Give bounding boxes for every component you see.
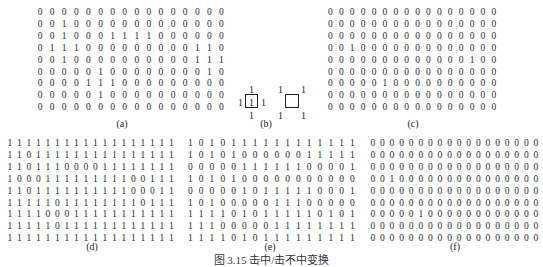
- matrix-cell: 0: [477, 67, 488, 79]
- matrix-cell: 0: [107, 43, 119, 55]
- matrix-cell: 0: [435, 221, 445, 233]
- matrix-cell: 0: [239, 198, 250, 210]
- matrix-cell: 0: [70, 31, 82, 43]
- matrix-cell: 0: [46, 67, 58, 79]
- matrix-cell: 0: [493, 162, 503, 174]
- matrix-cell: 0: [217, 162, 228, 174]
- matrix-cell: 0: [401, 7, 412, 19]
- matrix-cell: 1: [143, 31, 155, 43]
- matrix-cell: 1: [43, 186, 53, 198]
- matrix-cell: 0: [46, 55, 58, 67]
- matrix-cell: 0: [94, 31, 106, 43]
- matrix-cell: 0: [167, 67, 179, 79]
- matrix-cell: 0: [148, 186, 158, 198]
- matrix-cell: 0: [203, 78, 215, 90]
- matrix-cell: 1: [207, 150, 218, 162]
- matrix-cell: 1: [34, 150, 44, 162]
- matrix-cell: 0: [531, 174, 541, 186]
- matrix-cell: 1: [81, 174, 91, 186]
- matrix-cell: 0: [217, 198, 228, 210]
- matrix-cell: 0: [445, 78, 456, 90]
- matrix-cell: 1: [62, 186, 72, 198]
- matrix-cell: 1: [94, 78, 106, 90]
- matrix-cell: 0: [435, 138, 445, 150]
- matrix-cell: 0: [416, 150, 426, 162]
- matrix-cell: 0: [271, 150, 282, 162]
- matrix-cell: 0: [358, 19, 369, 31]
- matrix-cell: 1: [167, 174, 177, 186]
- matrix-cell: 0: [435, 150, 445, 162]
- matrix-cell: 0: [70, 19, 82, 31]
- matrix-cell: 1: [261, 162, 272, 174]
- matrix-cell: 1: [315, 221, 326, 233]
- matrix-cell: 1: [250, 138, 261, 150]
- matrix-cell: 1: [62, 138, 72, 150]
- matrix-cell: 0: [416, 162, 426, 174]
- matrix-cell: 0: [531, 221, 541, 233]
- matrix-cell: 0: [435, 198, 445, 210]
- matrix-cell: 1: [282, 198, 293, 210]
- matrix-cell: 1: [315, 150, 326, 162]
- matrix-cell: 1: [5, 150, 15, 162]
- matrix-cell: 1: [261, 209, 272, 221]
- matrix-cell: 0: [107, 19, 119, 31]
- matrix-cell: 0: [217, 186, 228, 198]
- figure-caption: 图 3.15 击中/击不中变换: [0, 251, 543, 267]
- matrix-cell: 0: [406, 198, 416, 210]
- matrix-cell: 0: [119, 102, 131, 114]
- matrix-cell: 1: [325, 233, 336, 245]
- matrix-cell: 0: [82, 7, 94, 19]
- matrix-cell: 1: [46, 43, 58, 55]
- matrix-cell: 1: [119, 162, 129, 174]
- matrix-cell: 1: [271, 209, 282, 221]
- matrix-cell: 0: [502, 198, 512, 210]
- matrix-cell: 0: [336, 174, 347, 186]
- matrix-cell: 0: [445, 31, 456, 43]
- matrix-cell: 0: [531, 186, 541, 198]
- matrix-cell: 1: [81, 150, 91, 162]
- matrix-cell: 1: [24, 138, 34, 150]
- matrix-cell: 0: [445, 174, 455, 186]
- matrix-cell: 0: [379, 90, 390, 102]
- matrix-cell: 0: [493, 186, 503, 198]
- matrix-cell: 0: [179, 67, 191, 79]
- matrix-cell: 1: [157, 150, 167, 162]
- matrix-cell: 0: [46, 78, 58, 90]
- matrix-cell: 0: [239, 174, 250, 186]
- matrix-cell: 1: [58, 43, 70, 55]
- matrix-cell: 0: [179, 102, 191, 114]
- matrix-cell: 0: [390, 90, 401, 102]
- miss-top-right: 1: [301, 84, 306, 95]
- matrix-cell: 0: [467, 7, 478, 19]
- matrix-cell: 0: [423, 78, 434, 90]
- matrix-cell: 0: [358, 78, 369, 90]
- matrix-cell: 1: [131, 31, 143, 43]
- matrix-cell: 0: [215, 102, 227, 114]
- label-b: (b): [246, 118, 286, 129]
- matrix-cell: 1: [43, 198, 53, 210]
- matrix-cell: 1: [58, 31, 70, 43]
- matrix-cell: 0: [423, 31, 434, 43]
- matrix-cell: 0: [454, 162, 464, 174]
- matrix-cell: 1: [347, 162, 358, 174]
- matrix-cell: 0: [155, 102, 167, 114]
- matrix-cell: 0: [488, 31, 499, 43]
- matrix-c: 0000000000000000000000000000000000000000…: [325, 7, 499, 114]
- matrix-cell: 0: [53, 221, 63, 233]
- matrix-cell: 0: [483, 138, 493, 150]
- matrix-cell: 0: [378, 150, 388, 162]
- matrix-cell: 0: [454, 138, 464, 150]
- matrix-cell: 1: [347, 138, 358, 150]
- matrix-cell: 0: [143, 67, 155, 79]
- matrix-cell: 0: [378, 186, 388, 198]
- matrix-cell: 0: [46, 102, 58, 114]
- matrix-cell: 0: [434, 55, 445, 67]
- matrix-cell: 1: [203, 67, 215, 79]
- matrix-cell: 0: [215, 78, 227, 90]
- matrix-cell: 0: [406, 209, 416, 221]
- matrix-cell: 0: [336, 55, 347, 67]
- matrix-cell: 0: [426, 150, 436, 162]
- matrix-cell: 0: [167, 102, 179, 114]
- matrix-cell: 0: [94, 102, 106, 114]
- matrix-cell: 1: [100, 150, 110, 162]
